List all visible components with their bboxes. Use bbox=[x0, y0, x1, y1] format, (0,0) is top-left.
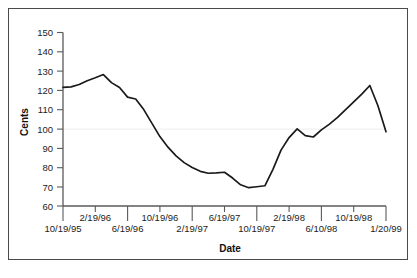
line-chart-plot: 150 140 130 120 110 100 90 80 70 60 Cent… bbox=[0, 0, 417, 278]
xtick-label-2-19-97: 2/19/97 bbox=[176, 223, 208, 234]
xtick-label-10-19-95: 10/19/95 bbox=[45, 223, 82, 234]
xtick-label-6-19-96: 6/19/96 bbox=[112, 223, 144, 234]
y-axis-ticks bbox=[57, 33, 63, 207]
xtick-label-2-19-96: 2/19/96 bbox=[79, 212, 111, 223]
y-axis-title: Cents bbox=[19, 108, 30, 136]
xtick-label-2-19-98: 2/19/98 bbox=[273, 212, 305, 223]
ytick-label-90: 90 bbox=[42, 143, 53, 154]
ytick-label-150: 150 bbox=[37, 27, 53, 38]
xtick-label-10-19-98: 10/19/98 bbox=[335, 212, 372, 223]
x-axis: 10/19/95 2/19/96 6/19/96 10/19/96 2/19/9… bbox=[45, 206, 402, 234]
ytick-label-100: 100 bbox=[37, 124, 53, 135]
xtick-label-6-10-98: 6/10/98 bbox=[306, 223, 338, 234]
ytick-label-110: 110 bbox=[38, 104, 53, 115]
ytick-label-120: 120 bbox=[37, 85, 53, 96]
ytick-label-60: 60 bbox=[42, 201, 53, 212]
y-axis: 150 140 130 120 110 100 90 80 70 60 bbox=[37, 27, 63, 212]
series-line-cents bbox=[63, 75, 386, 188]
ytick-label-80: 80 bbox=[42, 162, 53, 173]
xtick-label-6-19-97: 6/19/97 bbox=[209, 212, 241, 223]
ytick-label-140: 140 bbox=[37, 46, 53, 57]
ytick-label-70: 70 bbox=[42, 182, 53, 193]
chart-figure: 150 140 130 120 110 100 90 80 70 60 Cent… bbox=[0, 0, 417, 278]
ytick-label-130: 130 bbox=[37, 66, 53, 77]
x-axis-title: Date bbox=[219, 243, 241, 254]
xtick-label-10-19-97: 10/19/97 bbox=[238, 223, 275, 234]
xtick-label-10-19-96: 10/19/96 bbox=[141, 212, 178, 223]
xtick-label-1-20-99: 1/20/99 bbox=[370, 223, 402, 234]
